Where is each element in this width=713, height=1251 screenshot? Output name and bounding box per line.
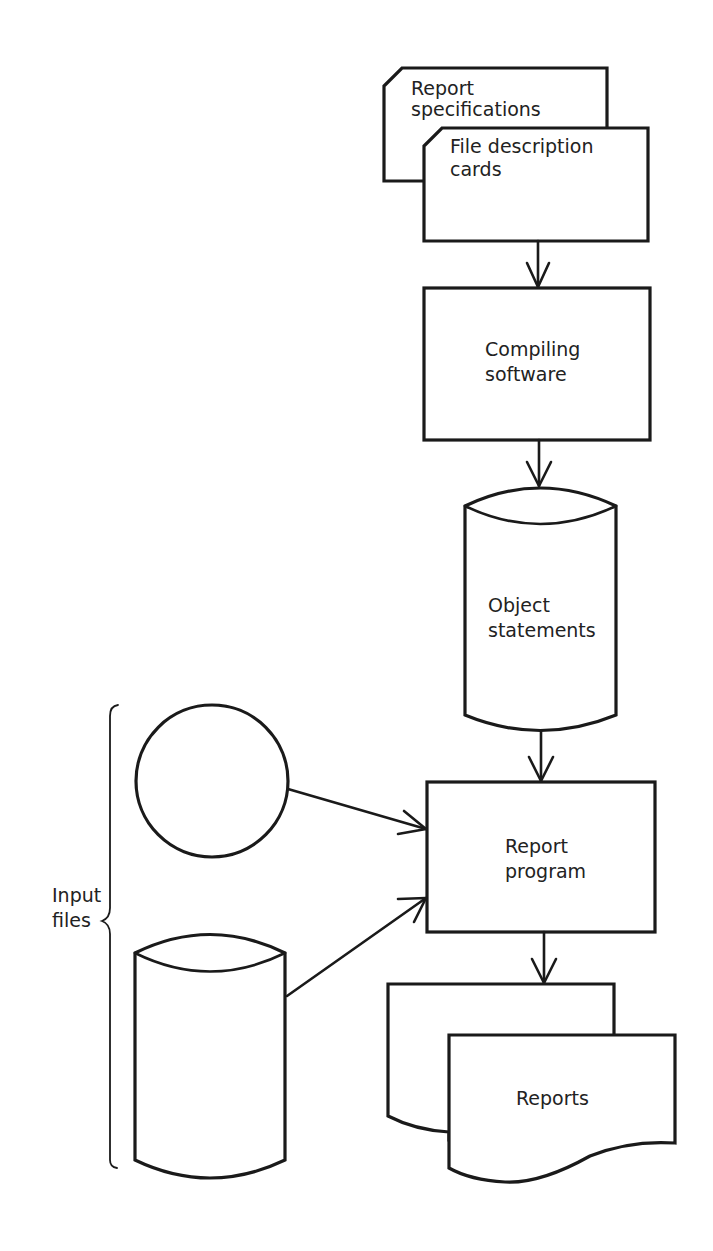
compiling-software-line2: software [485, 362, 580, 386]
file-description-line2: cards [450, 157, 593, 181]
report-program-line2: program [505, 859, 586, 883]
report-program-label: Report program [505, 834, 586, 883]
file-description-line1: File description [450, 134, 593, 158]
input-files-line2: files [52, 908, 101, 932]
report-program-line1: Report [505, 834, 586, 858]
input-files-line1: Input [52, 883, 101, 907]
object-statements-label: Object statements [488, 593, 596, 642]
report-specifications-label: Report specifications [411, 76, 541, 121]
reports-line1: Reports [516, 1086, 589, 1110]
reports-label: Reports [516, 1086, 589, 1110]
file-description-cards-label: File description cards [450, 134, 593, 181]
input-files-label: Input files [52, 883, 101, 932]
input-files-brace [102, 705, 118, 1168]
object-statements-line1: Object [488, 593, 596, 617]
compiling-software-label: Compiling software [485, 337, 580, 386]
flowchart-canvas [0, 0, 713, 1251]
report-specifications-line2: specifications [411, 97, 541, 121]
object-statements-line2: statements [488, 618, 596, 642]
connector-tape-to-report-program [288, 789, 426, 829]
connector-disk-to-report-program [287, 898, 426, 996]
compiling-software-line1: Compiling [485, 337, 580, 361]
input-file-tape-circle [136, 705, 288, 857]
